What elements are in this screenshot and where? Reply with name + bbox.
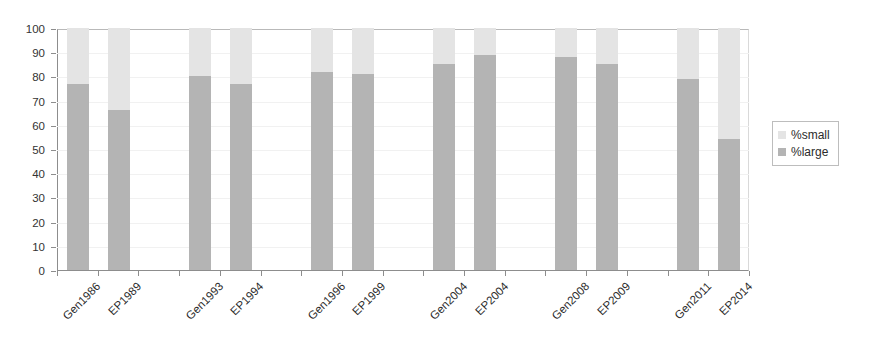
bar-Gen1993[interactable] bbox=[189, 28, 211, 270]
bar-segment-large-EP1999[interactable] bbox=[352, 74, 374, 270]
bar-segment-small-EP1999[interactable] bbox=[352, 28, 374, 74]
bar-segment-small-EP1989[interactable] bbox=[108, 28, 130, 110]
bar-segment-small-EP1994[interactable] bbox=[230, 28, 252, 84]
y-tick-label-40: 40 bbox=[32, 168, 45, 180]
y-tick-mark-70 bbox=[51, 102, 56, 103]
legend-item-small[interactable]: %small bbox=[778, 126, 830, 143]
bar-segment-large-Gen2011[interactable] bbox=[677, 79, 699, 270]
bar-segment-large-EP1989[interactable] bbox=[108, 110, 130, 270]
bar-segment-small-Gen1993[interactable] bbox=[189, 28, 211, 76]
bar-segment-small-EP2004[interactable] bbox=[474, 28, 496, 55]
y-tick-mark-100 bbox=[51, 29, 56, 30]
bar-Gen2008[interactable] bbox=[555, 28, 577, 270]
x-axis-label-EP1999: EP1999 bbox=[350, 280, 388, 318]
bar-segment-small-Gen2008[interactable] bbox=[555, 28, 577, 57]
y-tick-mark-20 bbox=[51, 223, 56, 224]
y-axis: 0102030405060708090100 bbox=[0, 22, 57, 272]
x-tick-mark-2 bbox=[138, 271, 139, 276]
bar-segment-large-Gen2004[interactable] bbox=[433, 64, 455, 270]
bar-segment-small-Gen1996[interactable] bbox=[311, 28, 333, 72]
legend-swatch-large-icon bbox=[778, 148, 786, 156]
x-tick-mark-8 bbox=[383, 271, 384, 276]
bar-segment-small-Gen2004[interactable] bbox=[433, 28, 455, 64]
x-tick-mark-0 bbox=[57, 271, 58, 276]
bar-slot-Gen1986 bbox=[58, 30, 99, 270]
y-tick-mark-50 bbox=[51, 150, 56, 151]
bar-slot-empty bbox=[505, 30, 546, 270]
bar-segment-small-EP2009[interactable] bbox=[596, 28, 618, 64]
bar-slot-EP1989 bbox=[99, 30, 140, 270]
bar-EP2009[interactable] bbox=[596, 28, 618, 270]
y-tick-label-60: 60 bbox=[32, 120, 45, 132]
y-tick-label-70: 70 bbox=[32, 96, 45, 108]
x-tick-mark-3 bbox=[179, 271, 180, 276]
y-tick-label-20: 20 bbox=[32, 217, 45, 229]
y-tick-label-50: 50 bbox=[32, 144, 45, 156]
bar-segment-small-Gen1986[interactable] bbox=[67, 28, 89, 84]
bar-Gen1986[interactable] bbox=[67, 28, 89, 270]
bar-slot-empty bbox=[383, 30, 424, 270]
x-axis-label-EP2014: EP2014 bbox=[717, 280, 755, 318]
bar-slot-Gen2004 bbox=[424, 30, 465, 270]
bar-slot-Gen2008 bbox=[546, 30, 587, 270]
bar-slot-Gen2011 bbox=[668, 30, 709, 270]
bar-segment-large-Gen1993[interactable] bbox=[189, 76, 211, 270]
y-tick-mark-10 bbox=[51, 247, 56, 248]
y-tick-mark-80 bbox=[51, 77, 56, 78]
bar-segment-large-EP2004[interactable] bbox=[474, 55, 496, 270]
y-tick-label-0: 0 bbox=[39, 265, 45, 277]
bar-slot-empty bbox=[261, 30, 302, 270]
bar-segment-large-EP2009[interactable] bbox=[596, 64, 618, 270]
x-axis-label-EP1994: EP1994 bbox=[228, 280, 266, 318]
chart-legend: %small %large bbox=[772, 121, 839, 166]
bar-EP2004[interactable] bbox=[474, 28, 496, 270]
y-tick-mark-0 bbox=[51, 271, 56, 272]
bar-segment-large-Gen1986[interactable] bbox=[67, 84, 89, 270]
bar-Gen2011[interactable] bbox=[677, 28, 699, 270]
legend-item-large[interactable]: %large bbox=[778, 143, 830, 160]
x-tick-mark-12 bbox=[545, 271, 546, 276]
stacked-bar-chart: 0102030405060708090100 Gen1986EP1989Gen1… bbox=[0, 0, 886, 358]
x-tick-mark-end bbox=[749, 271, 750, 276]
bar-segment-large-Gen2008[interactable] bbox=[555, 57, 577, 270]
x-tick-mark-16 bbox=[708, 271, 709, 276]
bar-segment-large-Gen1996[interactable] bbox=[311, 72, 333, 270]
bar-EP2014[interactable] bbox=[718, 28, 740, 270]
bar-EP1994[interactable] bbox=[230, 28, 252, 270]
x-tick-mark-14 bbox=[627, 271, 628, 276]
bar-slot-Gen1996 bbox=[302, 30, 343, 270]
x-tick-mark-6 bbox=[301, 271, 302, 276]
bar-EP1999[interactable] bbox=[352, 28, 374, 270]
y-tick-mark-30 bbox=[51, 198, 56, 199]
x-axis-label-Gen2004: Gen2004 bbox=[427, 280, 470, 323]
bar-slot-EP2004 bbox=[464, 30, 505, 270]
x-tick-mark-1 bbox=[98, 271, 99, 276]
bar-slot-EP2014 bbox=[708, 30, 749, 270]
bar-segment-small-Gen2011[interactable] bbox=[677, 28, 699, 79]
y-tick-label-90: 90 bbox=[32, 47, 45, 59]
bar-slot-empty bbox=[627, 30, 668, 270]
y-tick-label-30: 30 bbox=[32, 192, 45, 204]
bar-segment-small-EP2014[interactable] bbox=[718, 28, 740, 139]
x-axis-label-EP1989: EP1989 bbox=[106, 280, 144, 318]
x-tick-mark-9 bbox=[423, 271, 424, 276]
bar-segment-large-EP2014[interactable] bbox=[718, 139, 740, 270]
x-tick-mark-5 bbox=[261, 271, 262, 276]
x-tick-mark-10 bbox=[464, 271, 465, 276]
bar-Gen1996[interactable] bbox=[311, 28, 333, 270]
x-axis-label-Gen1993: Gen1993 bbox=[183, 280, 226, 323]
bar-segment-large-EP1994[interactable] bbox=[230, 84, 252, 270]
bar-slot-Gen1993 bbox=[180, 30, 221, 270]
bar-EP1989[interactable] bbox=[108, 28, 130, 270]
y-tick-mark-90 bbox=[51, 53, 56, 54]
x-tick-mark-7 bbox=[342, 271, 343, 276]
bar-slot-empty bbox=[139, 30, 180, 270]
plot-area bbox=[57, 29, 749, 271]
bar-Gen2004[interactable] bbox=[433, 28, 455, 270]
y-tick-mark-60 bbox=[51, 126, 56, 127]
legend-label-large: %large bbox=[791, 145, 828, 159]
y-tick-label-80: 80 bbox=[32, 71, 45, 83]
x-tick-mark-11 bbox=[505, 271, 506, 276]
bar-slot-EP2009 bbox=[586, 30, 627, 270]
x-tick-mark-13 bbox=[586, 271, 587, 276]
